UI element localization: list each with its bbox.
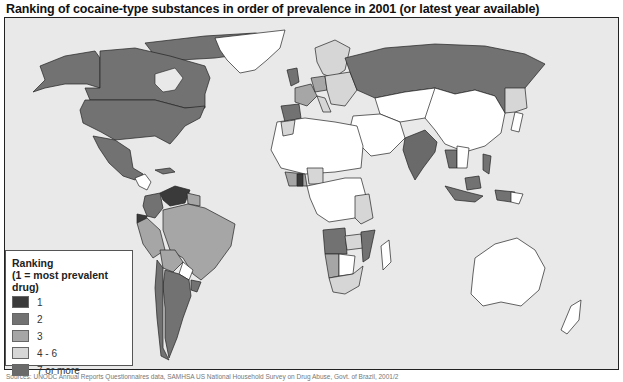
- country-australia: [471, 238, 545, 306]
- legend-subtitle: (1 = most prevalent drug): [12, 269, 126, 293]
- country-png: [511, 192, 523, 204]
- country-thailand: [445, 150, 457, 168]
- country-japan: [511, 112, 523, 132]
- country-argentina: [163, 270, 191, 358]
- country-nigeria: [307, 168, 323, 184]
- country-mexico: [93, 136, 143, 180]
- country-venezuela: [160, 186, 190, 206]
- legend: Ranking (1 = most prevalent drug) 1 2 3 …: [5, 250, 133, 366]
- legend-item-rank-4-6: 4 - 6: [12, 345, 126, 361]
- country-botswana: [339, 254, 355, 276]
- country-madagascar: [381, 240, 391, 270]
- country-italy: [317, 96, 331, 112]
- country-far-east: [505, 88, 527, 113]
- country-west-africa: [285, 172, 307, 186]
- country-borneo: [465, 176, 481, 190]
- country-philippines: [483, 154, 491, 174]
- legend-swatch: [12, 313, 29, 325]
- legend-label: 4 - 6: [37, 348, 57, 359]
- country-angola: [323, 228, 347, 254]
- country-uruguay: [191, 280, 201, 292]
- legend-label: 3: [37, 331, 43, 342]
- country-new-zealand: [561, 300, 581, 334]
- legend-item-rank-1: 1: [12, 294, 126, 310]
- country-caribbean: [155, 168, 175, 174]
- country-morocco: [281, 120, 295, 136]
- legend-label: 2: [37, 314, 43, 325]
- country-indochina: [457, 146, 469, 168]
- country-east-africa: [355, 194, 373, 224]
- map-title: Ranking of cocaine-type substances in or…: [6, 2, 539, 16]
- legend-item-rank-3: 3: [12, 328, 126, 344]
- country-uk: [287, 68, 299, 86]
- country-greenland: [215, 30, 285, 73]
- legend-item-rank-2: 2: [12, 311, 126, 327]
- country-mozambique: [361, 230, 375, 262]
- country-zambia: [345, 234, 363, 250]
- legend-swatch: [12, 347, 29, 359]
- legend-swatch: [12, 330, 29, 342]
- country-india: [403, 130, 437, 180]
- country-colombia: [143, 193, 163, 218]
- country-ghana: [297, 174, 303, 186]
- country-alaska: [33, 51, 100, 92]
- country-namibia: [325, 254, 339, 278]
- legend-swatch: [12, 296, 29, 308]
- legend-label: 1: [37, 297, 43, 308]
- source-note: Sources: UNODC Annual Reports Questionna…: [6, 373, 398, 380]
- country-scandinavia: [315, 40, 350, 78]
- legend-title: Ranking: [12, 257, 126, 269]
